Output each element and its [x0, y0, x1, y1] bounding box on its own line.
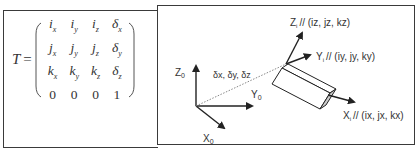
- matrix-cell: iz: [85, 15, 106, 39]
- matrix-label: T: [12, 51, 20, 68]
- matrix-row: jxjyjzδy: [42, 39, 128, 63]
- xi-label: Xi// (ix, jx, kx): [343, 110, 404, 122]
- tool-frame: Zi// (iz, jz, kz) Yi// (iy, jy, ky) Xi//…: [286, 17, 404, 122]
- matrix-cell: ix: [42, 15, 64, 39]
- frame-diagram-panel: Z0 Y0 X0 δx, δy, δz Zi// (iz, jz, kz) Yi…: [157, 5, 415, 145]
- translation-label: δx, δy, δz: [213, 70, 251, 80]
- xi-axis-arrow: [328, 95, 354, 102]
- x0-label: X0: [203, 133, 214, 145]
- matrix-row: ixiyizδx: [42, 15, 128, 39]
- matrix-body: ixiyizδxjxjyjzδykxkykzδz0001: [42, 15, 128, 104]
- matrix-row: kxkykzδz: [42, 62, 128, 86]
- matrix-cell: 0: [63, 86, 85, 104]
- matrix-cell: δy: [106, 39, 128, 63]
- matrix-cell: 1: [106, 86, 128, 104]
- matrix-cell: kx: [42, 62, 64, 86]
- transformation-matrix: T = ixiyizδxjxjyjzδykxkykzδz0001: [12, 15, 135, 104]
- matrix-cell: jx: [42, 39, 64, 63]
- matrix-cell: kz: [85, 62, 106, 86]
- matrix-cell: δx: [106, 15, 128, 39]
- yi-label: Yi// (iy, jy, ky): [316, 51, 375, 63]
- matrix-cell: jz: [85, 39, 106, 63]
- tool-prism: [272, 64, 336, 109]
- zi-label: Zi// (iz, jz, kz): [290, 17, 350, 29]
- matrix-row: 0001: [42, 86, 128, 104]
- matrix-cell: 0: [85, 86, 106, 104]
- right-parenthesis: [128, 22, 135, 98]
- left-parenthesis: [35, 22, 42, 98]
- matrix-panel: T = ixiyizδxjxjyjzδykxkykzδz0001: [3, 10, 158, 148]
- x0-axis-arrow: [196, 106, 224, 128]
- matrix-cell: 0: [42, 86, 64, 104]
- coordinate-frames-diagram: Z0 Y0 X0 δx, δy, δz Zi// (iz, jz, kz) Yi…: [158, 6, 416, 146]
- matrix-cell: δz: [106, 62, 128, 86]
- matrix-cell: ky: [63, 62, 85, 86]
- equals-sign: =: [23, 51, 31, 68]
- matrix-cell: jy: [63, 39, 85, 63]
- z0-label: Z0: [175, 67, 185, 79]
- y0-label: Y0: [251, 89, 262, 101]
- matrix-cell: iy: [63, 15, 85, 39]
